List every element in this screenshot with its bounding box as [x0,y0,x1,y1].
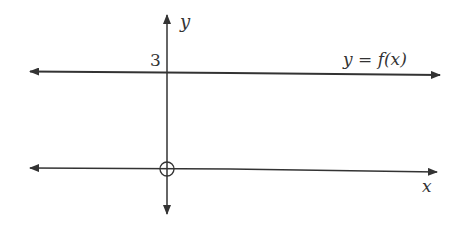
function-line-left [30,72,230,74]
function-label: y = f(x) [342,49,407,69]
x-axis-right [230,169,437,172]
intercept-label: 3 [150,50,161,70]
function-line-right [230,73,440,75]
graph: y 3 y = f(x) x [0,0,459,232]
y-axis-label: y [179,11,191,32]
x-axis-label: x [422,176,432,196]
x-axis-left [30,168,230,169]
